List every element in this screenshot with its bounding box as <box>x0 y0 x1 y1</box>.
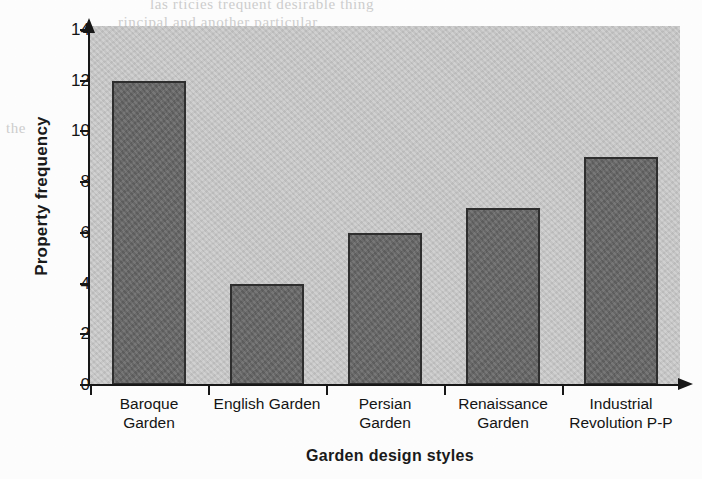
x-axis-title: Garden design styles <box>200 447 580 465</box>
y-axis-tick-label: 8 <box>56 173 90 190</box>
y-axis-tick-label: 12 <box>56 72 90 89</box>
x-axis-arrow-icon <box>678 378 693 390</box>
x-axis-line <box>88 384 682 386</box>
y-axis-arrow-icon <box>83 18 95 33</box>
category-label: IndustrialRevolution P-P <box>556 394 686 432</box>
y-axis-tick-label: 2 <box>56 325 90 342</box>
category-label-line: Garden <box>438 413 568 432</box>
y-axis-tick-label: 4 <box>56 275 90 292</box>
y-axis-tick-label: 10 <box>56 122 90 139</box>
bar-chart: 14121086420 BaroqueGardenEnglish GardenP… <box>0 0 702 479</box>
category-label: PersianGarden <box>320 394 450 432</box>
bar <box>230 284 304 385</box>
category-label: BaroqueGarden <box>84 394 214 432</box>
category-label-line: Revolution P-P <box>556 413 686 432</box>
category-label-line: Industrial <box>556 394 686 413</box>
bar <box>112 81 186 385</box>
y-axis-title: Property frequency <box>32 66 52 326</box>
y-axis-tick-label: 0 <box>56 376 90 393</box>
category-label: RenaissanceGarden <box>438 394 568 432</box>
category-label-line: Renaissance <box>438 394 568 413</box>
category-label-line: Persian <box>320 394 450 413</box>
category-label: English Garden <box>202 394 332 413</box>
bar <box>584 157 658 385</box>
y-axis-tick-label: 6 <box>56 224 90 241</box>
category-label-line: Baroque <box>84 394 214 413</box>
category-label-line: Garden <box>84 413 214 432</box>
bar <box>348 233 422 385</box>
category-label-line: English Garden <box>202 394 332 413</box>
bar <box>466 208 540 386</box>
category-label-line: Garden <box>320 413 450 432</box>
